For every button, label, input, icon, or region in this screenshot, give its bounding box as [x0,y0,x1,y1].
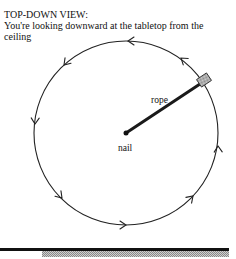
floor-line [0,248,229,251]
rope-line [126,82,203,133]
nail-label: nail [118,143,133,153]
arrow-lower-left-icon [55,191,65,201]
top-down-diagram: rope nail [0,0,236,259]
arrow-right-icon [214,146,222,152]
floor-hatch-strip [42,251,229,257]
nail-point [124,131,129,136]
rope-label: rope [151,95,168,105]
